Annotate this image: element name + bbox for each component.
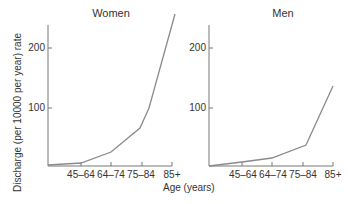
women-xtick-label: 45–64 xyxy=(67,169,95,180)
men-xtick-label: 64–74 xyxy=(259,169,287,180)
x-axis-label: Age (years) xyxy=(163,182,215,193)
men-ytick-label-200: 200 xyxy=(189,42,206,53)
women-xtick-label: 85+ xyxy=(164,169,181,180)
women-xtick-label: 75–84 xyxy=(127,169,155,180)
women-ytick-label-200: 200 xyxy=(28,42,45,53)
men-panel: Men 200 100 45–64 64–74 75–84 85+ xyxy=(189,7,341,180)
y-axis-label: Discharge (per 10000 per year) rate xyxy=(12,33,23,192)
men-title: Men xyxy=(272,7,293,19)
men-line xyxy=(209,86,333,166)
men-xtick-label: 45–64 xyxy=(229,169,257,180)
women-xtick-label: 64–74 xyxy=(97,169,125,180)
women-ytick-label-100: 100 xyxy=(28,102,45,113)
chart-figure: Discharge (per 10000 per year) rate Wome… xyxy=(0,0,348,204)
women-line xyxy=(48,14,175,165)
men-ytick-label-100: 100 xyxy=(189,102,206,113)
women-panel: Women 200 100 45–64 64–74 75–84 85+ xyxy=(28,7,180,180)
women-title: Women xyxy=(92,7,130,19)
men-xtick-label: 85+ xyxy=(325,169,342,180)
men-xtick-label: 75–84 xyxy=(289,169,317,180)
